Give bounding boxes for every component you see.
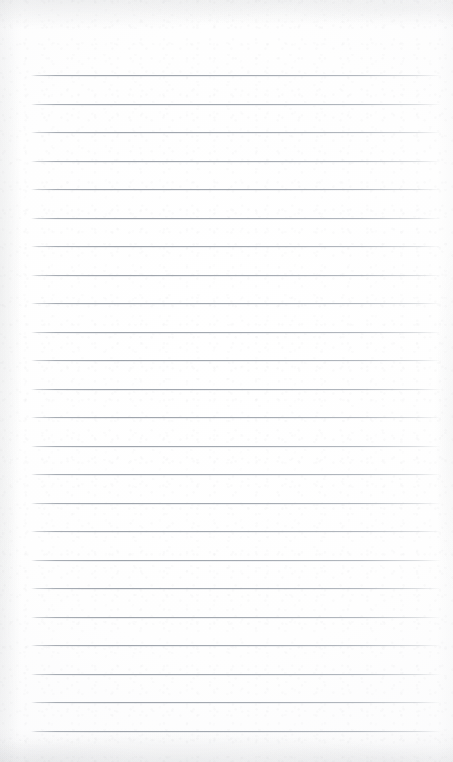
writing-area-text[interactable] [31,48,441,748]
notepad-page [0,0,453,762]
